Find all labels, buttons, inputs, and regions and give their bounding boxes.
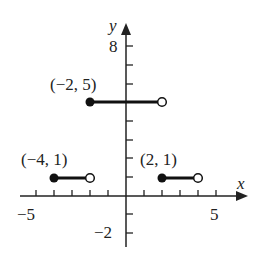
point-label-2-1: (2, 1) — [140, 150, 177, 169]
x-axis-label: x — [236, 174, 245, 193]
segment-neg4-1 — [50, 174, 95, 183]
closed-dot — [50, 174, 59, 183]
y-axis-arrow-icon — [121, 23, 131, 35]
x-tick-label-5: 5 — [210, 205, 219, 224]
closed-dot — [86, 98, 95, 107]
closed-dot — [158, 174, 167, 183]
x-tick-label-neg5: −5 — [17, 205, 35, 224]
point-label-neg2-5: (−2, 5) — [50, 75, 96, 94]
segment-2-1 — [158, 174, 203, 183]
y-tick-label-neg2: −2 — [94, 223, 112, 242]
y-ticks — [126, 46, 133, 233]
y-axis-label: y — [107, 16, 117, 35]
open-dot — [158, 98, 167, 107]
step-function-graph: y x 8 −2 −5 5 (−2, 5) (−4, 1) (2, 1) — [0, 0, 253, 262]
open-dot — [86, 174, 95, 183]
open-dot — [194, 174, 203, 183]
y-tick-label-8: 8 — [109, 37, 118, 56]
point-label-neg4-1: (−4, 1) — [21, 150, 67, 169]
